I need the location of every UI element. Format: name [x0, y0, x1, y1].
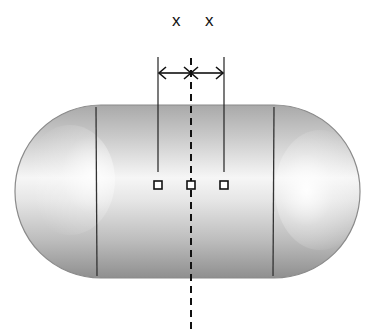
right-sensor-marker [220, 181, 228, 189]
tank-diagram-svg [0, 0, 375, 333]
right-dimension-arrow [191, 67, 223, 79]
diagram: x x [0, 0, 375, 333]
dimension-label-left: x [172, 12, 181, 29]
left-sensor-marker [154, 181, 162, 189]
dimension-label-right: x [205, 12, 214, 29]
left-dimension-arrow [159, 67, 191, 79]
center-sensor-marker [187, 181, 195, 189]
